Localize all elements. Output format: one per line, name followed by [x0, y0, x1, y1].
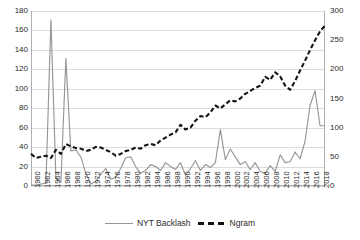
x-axis-tick-label: 1968	[74, 171, 82, 188]
x-axis-tick-label: 2008	[273, 171, 281, 188]
x-axis-tick-label: 2014	[303, 171, 311, 188]
y-axis-left-tick-label: 120	[2, 65, 28, 73]
y-axis-right-tick-label: 0	[330, 182, 356, 190]
legend-item[interactable]: NYT Backlash	[105, 219, 191, 228]
y-axis-right-tick-label: 100	[330, 124, 356, 132]
y-axis-right-tick-label: 50	[330, 153, 356, 161]
x-axis-tick-label: 1996	[214, 171, 222, 188]
x-axis-tick-label: 1978	[124, 171, 132, 188]
x-axis-tick-label: 1974	[104, 171, 112, 188]
x-axis-tick-label: 1970	[84, 171, 92, 188]
y-axis-left-tick-label: 40	[2, 143, 28, 151]
y-axis-right-tick-label: 250	[330, 36, 356, 44]
series-line-ngram	[31, 26, 325, 158]
y-axis-left-tick-label: 80	[2, 104, 28, 112]
y-axis-left-tick-label: 100	[2, 85, 28, 93]
plot-area	[31, 11, 325, 186]
y-axis-right-tick-label: 300	[330, 7, 356, 15]
x-axis-tick-label: 1966	[64, 171, 72, 188]
x-axis-tick-label: 2006	[263, 171, 271, 188]
x-axis-tick-label: 1972	[94, 171, 102, 188]
x-axis-tick-label: 1964	[54, 171, 62, 188]
y-axis-right-tick-label: 150	[330, 95, 356, 103]
y-axis-left-tick-label: 0	[2, 182, 28, 190]
series-layer	[31, 11, 325, 186]
legend-item[interactable]: Ngram	[198, 219, 256, 228]
x-axis-tick-label: 1980	[134, 171, 142, 188]
y-axis-left-tick-label: 180	[2, 7, 28, 15]
x-axis-tick-label: 2002	[243, 171, 251, 188]
chart-legend: NYT BacklashNgram	[0, 219, 360, 228]
x-axis-tick-label: 1998	[224, 171, 232, 188]
x-axis-tick-label: 2000	[234, 171, 242, 188]
x-axis-tick-label: 2010	[283, 171, 291, 188]
y-axis-right-tick-label: 200	[330, 65, 356, 73]
x-axis-tick-label: 1988	[174, 171, 182, 188]
x-axis-tick-label: 1976	[114, 171, 122, 188]
x-axis-tick-label: 1992	[194, 171, 202, 188]
chart-container: 020406080100120140160180 050100150200250…	[0, 0, 360, 240]
legend-solid-line-icon	[105, 223, 133, 225]
legend-label: Ngram	[230, 219, 256, 228]
x-axis-tick-label: 1994	[204, 171, 212, 188]
x-axis-tick-label: 1982	[144, 171, 152, 188]
x-axis-tick-label: 2018	[323, 171, 331, 188]
y-axis-left-tick-label: 140	[2, 46, 28, 54]
y-axis-left-tick-label: 60	[2, 124, 28, 132]
x-axis-tick-label: 2012	[293, 171, 301, 188]
x-axis-tick-label: 2016	[313, 171, 321, 188]
x-axis-tick-label: 1962	[44, 171, 52, 188]
x-axis-tick-label: 1986	[164, 171, 172, 188]
legend-dashed-line-icon	[198, 222, 226, 225]
legend-label: NYT Backlash	[137, 219, 191, 228]
y-axis-left-tick-label: 160	[2, 26, 28, 34]
y-axis-left-tick-label: 20	[2, 163, 28, 171]
x-axis-tick-label: 1990	[184, 171, 192, 188]
x-axis-tick-label: 1984	[154, 171, 162, 188]
x-axis-tick-label: 1960	[34, 171, 42, 188]
series-line-nyt-backlash	[31, 20, 325, 185]
x-axis-tick-label: 2004	[253, 171, 261, 188]
